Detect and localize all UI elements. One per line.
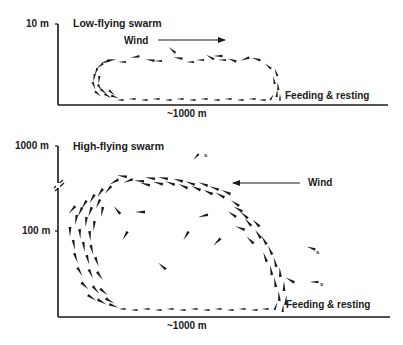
straggler-marker: s (320, 281, 323, 287)
diagram-canvas (0, 0, 403, 345)
high-panel-title: High-flying swarm (73, 141, 164, 152)
high-panel-axes (55, 146, 390, 317)
low-ground-label: Feeding & resting (285, 91, 369, 101)
low-panel-title: Low-flying swarm (73, 18, 162, 29)
high-wind-label: Wind (308, 178, 332, 188)
low-swarm-locusts (92, 46, 281, 101)
straggler-marker: s (204, 152, 207, 158)
high-x-label: ~1000 m (167, 321, 207, 331)
high-y-tick-label-1000: 1000 m (15, 141, 49, 151)
high-swarm-locusts (68, 153, 319, 312)
high-ground-label: Feeding & resting (286, 300, 370, 310)
low-y-tick-label: 10 m (26, 19, 49, 29)
low-x-label: ~1000 m (167, 109, 207, 119)
straggler-marker: s (316, 249, 319, 255)
high-y-tick-label-100: 100 m (22, 226, 50, 236)
low-wind-label: Wind (124, 36, 148, 46)
axis-break-icon (54, 180, 64, 191)
